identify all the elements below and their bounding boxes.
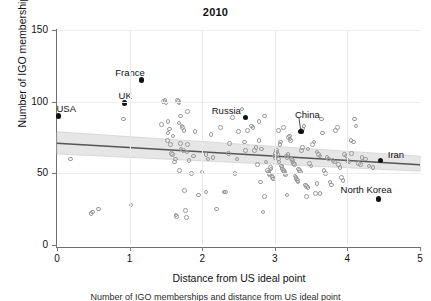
scatter-point xyxy=(329,183,334,188)
scatter-point xyxy=(349,151,354,156)
scatter-point xyxy=(304,194,309,199)
scatter-point xyxy=(187,158,192,163)
scatter-point xyxy=(352,117,357,122)
scatter-point xyxy=(278,140,283,145)
scatter-point xyxy=(223,190,228,195)
vertical-gridline xyxy=(202,30,203,245)
scatter-point xyxy=(300,145,305,150)
scatter-point xyxy=(254,145,259,150)
scatter-point xyxy=(227,141,232,146)
scatter-point xyxy=(242,140,247,145)
x-tick-mark xyxy=(420,247,421,251)
scatter-point xyxy=(178,141,183,146)
scatter-point xyxy=(184,215,189,220)
highlighted-point-france xyxy=(139,77,144,82)
scatter-point xyxy=(288,138,293,143)
plot-area: USAUKFranceRussiaChinaIranNorth Korea xyxy=(57,30,420,245)
x-tick-label: 1 xyxy=(118,254,142,264)
x-tick-label: 5 xyxy=(408,254,431,264)
scatter-point xyxy=(182,188,187,193)
y-tick-label: 150 xyxy=(8,25,48,35)
scatter-point xyxy=(183,208,188,213)
figure-caption: Number of IGO memberships and distance f… xyxy=(0,292,431,301)
vertical-gridline xyxy=(275,30,276,245)
scatter-point xyxy=(218,125,223,130)
scatter-point xyxy=(226,151,231,156)
scatter-point xyxy=(276,128,281,133)
scatter-point xyxy=(173,157,178,162)
y-tick-label: 0 xyxy=(8,240,48,250)
point-label-usa: USA xyxy=(56,104,76,114)
scatter-point xyxy=(341,178,346,183)
scatter-point xyxy=(251,125,256,130)
scatter-point xyxy=(177,168,182,173)
y-tick-label: 100 xyxy=(8,97,48,107)
scatter-point xyxy=(159,122,164,127)
point-label-russia: Russia xyxy=(212,106,241,116)
scatter-point xyxy=(182,128,187,133)
scatter-point xyxy=(178,114,183,119)
x-tick-label: 0 xyxy=(45,254,69,264)
scatter-point xyxy=(257,138,262,143)
scatter-point xyxy=(363,157,368,162)
horizontal-gridline xyxy=(57,173,420,174)
figure-container: 2010 Number of IGO memberships Distance … xyxy=(0,0,431,301)
x-tick-label: 3 xyxy=(263,254,287,264)
point-label-iran: Iran xyxy=(388,150,404,160)
scatter-point xyxy=(262,194,267,199)
x-tick-label: 4 xyxy=(335,254,359,264)
y-axis-label: Number of IGO memberships xyxy=(16,0,28,159)
scatter-point xyxy=(185,109,190,114)
scatter-point xyxy=(209,132,214,137)
scatter-point xyxy=(318,191,323,196)
vertical-gridline xyxy=(130,30,131,245)
x-axis-label: Distance from US ideal point xyxy=(57,272,421,284)
scatter-point xyxy=(196,193,201,198)
y-tick-label: 50 xyxy=(8,168,48,178)
x-tick-label: 2 xyxy=(190,254,214,264)
horizontal-gridline xyxy=(57,102,420,103)
scatter-point xyxy=(90,210,95,215)
scatter-point xyxy=(262,114,267,119)
point-label-china: China xyxy=(295,110,320,120)
horizontal-gridline xyxy=(57,30,420,31)
highlighted-point-usa xyxy=(56,113,61,118)
scatter-point xyxy=(243,148,248,153)
scatter-point xyxy=(281,125,286,130)
scatter-point xyxy=(185,142,190,147)
scatter-point xyxy=(236,129,241,134)
vertical-gridline xyxy=(347,30,348,245)
scatter-point xyxy=(358,162,363,167)
scatter-point xyxy=(351,140,356,145)
scatter-point xyxy=(168,142,173,147)
scatter-point xyxy=(255,162,260,167)
scatter-point xyxy=(257,119,262,124)
scatter-point xyxy=(335,125,340,130)
scatter-point xyxy=(245,128,250,133)
scatter-point xyxy=(371,165,376,170)
highlighted-point-north-korea xyxy=(376,196,381,201)
regression-overlay xyxy=(57,30,420,245)
scatter-point xyxy=(258,180,263,185)
confidence-band xyxy=(57,132,420,171)
scatter-point xyxy=(174,214,179,219)
scatter-point xyxy=(167,127,172,132)
chart-title: 2010 xyxy=(0,6,431,18)
scatter-point xyxy=(315,181,320,186)
